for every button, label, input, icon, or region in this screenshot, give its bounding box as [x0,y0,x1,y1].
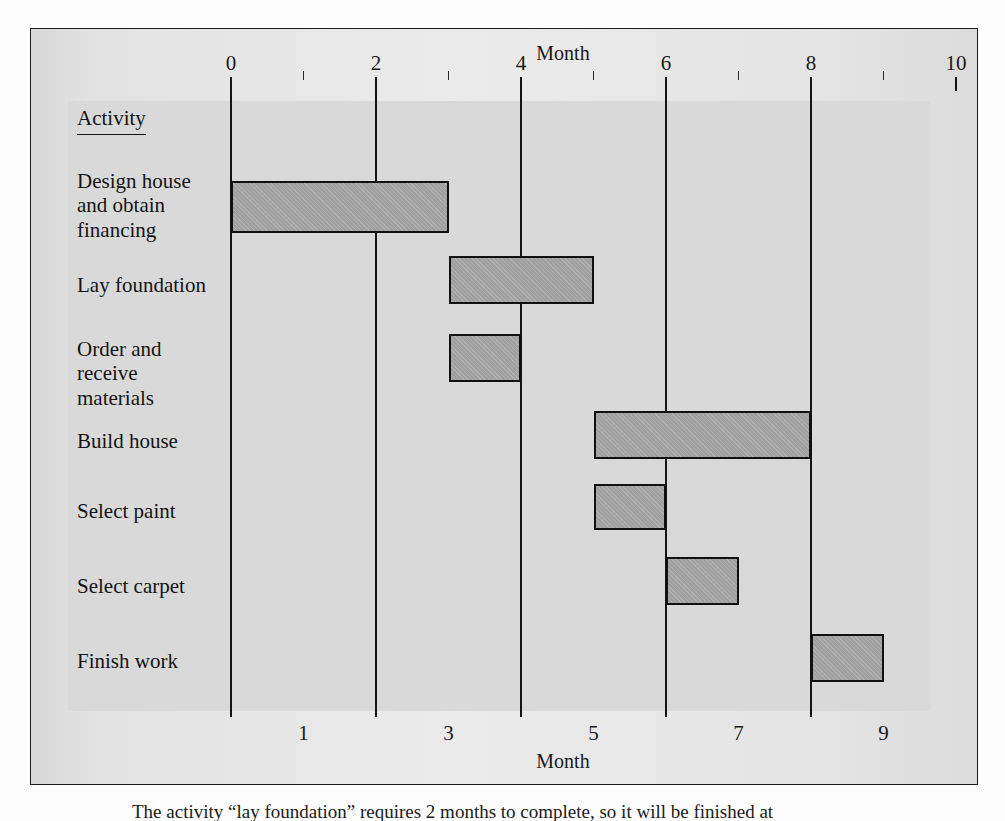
top-tick-label-10: 10 [934,53,978,74]
top-tick-major-10 [955,77,957,91]
gantt-bar-7[interactable] [811,634,884,682]
top-tick-major-8 [810,77,812,91]
gantt-bar-3[interactable] [449,334,522,382]
top-tick-label-6: 6 [644,53,688,74]
figure-caption: The activity “lay foundation” requires 2… [132,800,952,821]
gantt-bar-5[interactable] [594,484,667,530]
activity-label-5: Select paint [77,499,252,523]
activity-label-4: Build house [77,429,252,453]
activity-label-7: Finish work [77,649,252,673]
gantt-bar-1[interactable] [231,181,449,233]
bottom-tick-label-5: 5 [572,723,616,744]
top-tick-label-0: 0 [209,53,253,74]
top-tick-minor-1 [303,71,304,80]
gantt-bar-2[interactable] [449,256,594,304]
bottom-tick-label-7: 7 [717,723,761,744]
top-tick-label-8: 8 [789,53,833,74]
bottom-tick-label-3: 3 [427,723,471,744]
top-tick-label-2: 2 [354,53,398,74]
gantt-bar-6[interactable] [666,557,739,605]
activity-label-6: Select carpet [77,574,252,598]
top-axis-title: Month [483,43,643,63]
top-tick-major-2 [375,77,377,91]
top-tick-minor-9 [883,71,884,80]
activity-label-3: Order and receive materials [77,337,252,410]
bottom-tick-label-1: 1 [282,723,326,744]
top-tick-minor-3 [448,71,449,80]
top-tick-minor-5 [593,71,594,80]
top-tick-minor-7 [738,71,739,80]
activity-label-1: Design house and obtain financing [77,169,252,242]
bottom-tick-label-9: 9 [862,723,906,744]
activity-column-header: Activity [77,107,146,135]
bottom-axis-title: Month [483,751,643,771]
top-tick-major-6 [665,77,667,91]
figure-frame: 024681013579 Month Month Activity Design… [30,28,978,785]
top-tick-major-0 [230,77,232,91]
top-tick-major-4 [520,77,522,91]
activity-label-2: Lay foundation [77,273,252,297]
gantt-bar-4[interactable] [594,411,812,459]
